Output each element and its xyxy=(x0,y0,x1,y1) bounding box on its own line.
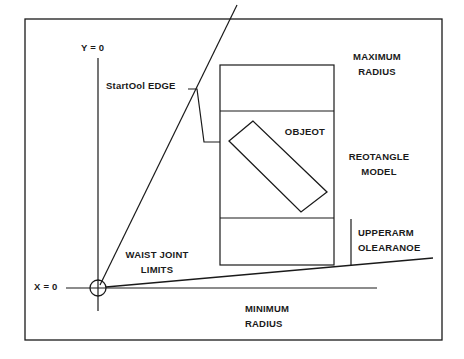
waist-limit-upper-line xyxy=(100,5,237,285)
x-axis-label: X = 0 xyxy=(34,281,57,292)
object-label: OBJEOT xyxy=(285,126,325,137)
waist-joint-limits-label-line1: WAIST JOINT xyxy=(126,249,189,260)
maximum-radius-label-line2: RADIUS xyxy=(358,66,396,77)
rectangle-model xyxy=(220,65,334,265)
upperarm-clearance-label-line2: OLEARANOE xyxy=(358,242,421,253)
minimum-radius-label-line1: MINIMUM xyxy=(245,303,289,314)
upperarm-clearance-label-line1: UPPERARM xyxy=(358,227,414,238)
waist-joint-limits-label-line2: LIMITS xyxy=(141,264,173,275)
startool-edge-label: StartOol EDGE xyxy=(106,80,176,91)
startool-edge-leader xyxy=(188,89,220,142)
maximum-radius-label-line1: MAXIMUM xyxy=(353,51,401,62)
y-axis-label: Y = 0 xyxy=(81,42,104,53)
rectangle-model-label-line1: REOTANGLE xyxy=(349,151,410,162)
workspace-diagram: Y = 0 X = 0 StartOol EDGE MAXIMUM RADIUS… xyxy=(0,0,464,359)
minimum-radius-label-line2: RADIUS xyxy=(245,318,283,329)
rectangle-model-label-line2: MODEL xyxy=(361,166,396,177)
